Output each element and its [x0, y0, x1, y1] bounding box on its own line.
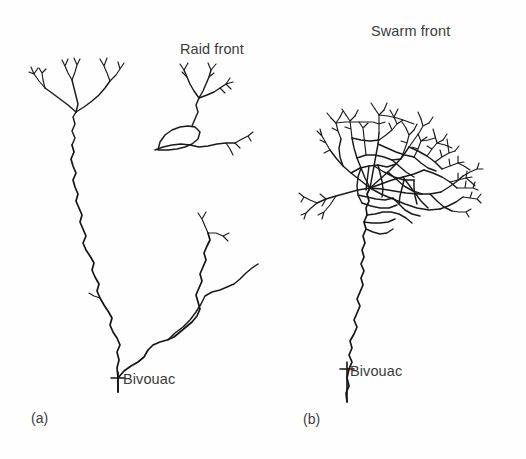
raid-front-label: Raid front [180, 41, 244, 57]
panel-b-mesh-link-14 [352, 138, 379, 141]
panel-b-mesh-link-13 [440, 197, 463, 209]
panel-b-trail-network [299, 103, 483, 402]
panel-a-trail-network [29, 58, 258, 392]
panel-b-fringe-16 [463, 163, 483, 176]
bivouac-label-panel-b: Bivouac [350, 363, 402, 379]
panel-b-mesh-link-15 [392, 160, 414, 177]
panel-b-fringe-1 [317, 129, 330, 153]
panel-a-branch-left-tip-1a [29, 67, 38, 74]
panel-a-main-trunk [71, 145, 120, 392]
swarm-front-label: Swarm front [371, 23, 450, 39]
panel-b-fringe-3 [345, 115, 355, 138]
panel-b-mesh-link-7 [378, 144, 414, 157]
panel-b-fringe-crosslink-1 [336, 122, 372, 123]
panel-a-mid-connector [168, 264, 258, 340]
panel-b-left-arm-tips [299, 193, 326, 219]
panel-a-front-branch-left [184, 70, 199, 98]
panel-b-fan-base [366, 188, 370, 215]
panel-label-a: (a) [31, 410, 48, 426]
panel-a-front-tips-right [220, 78, 233, 93]
panel-b-fringe-15 [463, 192, 481, 203]
panel-b-fringe-5 [373, 109, 385, 133]
panel-b-lower-branch-2 [364, 219, 395, 223]
panel-b-mesh-link-16 [414, 157, 436, 171]
panel-a-branch-right-tips [100, 58, 124, 81]
raid-pattern-drawing [0, 0, 526, 459]
panel-a-mid-cluster-spine [155, 143, 235, 150]
panel-a-branch-center-main [72, 80, 78, 112]
panel-label-b: (b) [303, 411, 320, 427]
panel-b-fringe-6 [379, 117, 403, 140]
panel-a-right-trail-lower [118, 233, 210, 378]
panel-a-branch-right-main [76, 81, 110, 112]
bivouac-label-panel-a: Bivouac [123, 371, 175, 387]
panel-a-right-trail-sidebranch [208, 233, 229, 241]
panel-a-branch-left-main [45, 88, 76, 112]
panel-b-fringe-2 [331, 117, 341, 139]
panel-b-lower-branch-3 [366, 229, 393, 234]
panel-b-fringe-8 [412, 134, 427, 157]
panel-b-fringe-21 [433, 129, 459, 151]
panel-b-fringe-4 [359, 122, 368, 155]
panel-b-fringe-12 [442, 156, 464, 169]
panel-a-upper-trunk [72, 112, 76, 145]
panel-a-front-stem [192, 98, 199, 126]
panel-a-branch-center-tips [62, 58, 80, 80]
panel-b-mesh-link-2 [357, 155, 401, 160]
panel-b-fringe-17 [452, 209, 471, 217]
panel-b-fringe-19 [327, 109, 358, 118]
panel-b-mesh-link-6 [357, 168, 362, 203]
figure-container: Raid front Swarm front Bivouac Bivouac (… [0, 0, 526, 459]
panel-a-right-trail-tip [198, 212, 208, 233]
